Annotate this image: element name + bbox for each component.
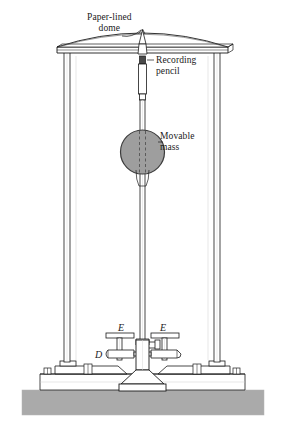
label-e-right: E	[160, 322, 166, 333]
label-movable-mass: Movable mass	[160, 131, 194, 153]
label-dome-line1: Paper-lined	[87, 12, 132, 23]
label-mass-line1: Movable	[160, 131, 194, 142]
diagram-canvas	[0, 0, 285, 432]
ground-foundation	[22, 390, 264, 415]
left-column	[64, 52, 70, 362]
label-pencil-line2: pencil	[156, 66, 196, 77]
label-recording-pencil: Recording pencil	[156, 55, 196, 77]
label-paper-lined-dome: Paper-lined dome	[87, 12, 132, 34]
label-e-left: E	[118, 322, 124, 333]
recording-pencil	[138, 30, 147, 100]
label-pencil-line1: Recording	[156, 55, 196, 66]
label-d: D	[95, 349, 102, 360]
right-column	[214, 52, 220, 362]
label-mass-line2: mass	[160, 142, 194, 153]
seismograph-diagram: Paper-lined dome Recording pencil Movabl…	[0, 0, 285, 432]
label-dome-line2: dome	[87, 23, 132, 34]
